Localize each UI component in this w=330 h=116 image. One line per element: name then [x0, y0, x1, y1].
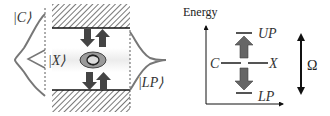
cavity-state-label: |C⟩: [13, 10, 32, 25]
top-mirror: [52, 4, 130, 28]
lower-level-label: LP: [257, 89, 275, 104]
splitting-label: Ω: [307, 58, 317, 73]
exchange-arrows-top: [80, 29, 110, 47]
rabi-splitting-arrow: [297, 33, 305, 95]
bottom-mirror: [52, 90, 130, 112]
exciton-icon: [80, 52, 106, 68]
energy-diagram: Energy UP LP C X Ω: [183, 5, 317, 104]
polariton-diagram: |C⟩ |X⟩ |LP⟩ Energy UP LP C X Ω: [0, 0, 330, 116]
polariton-state-label: |LP⟩: [138, 75, 164, 90]
up-arrow-icon: [235, 36, 253, 58]
cavity-level-label: C: [210, 56, 220, 71]
polariton-mode-profile: [130, 30, 166, 108]
exciton-state-label: |X⟩: [48, 53, 66, 68]
exchange-arrows-bottom: [82, 72, 111, 90]
upper-level-label: UP: [258, 26, 277, 41]
energy-axis-label: Energy: [183, 5, 217, 19]
exciton-level-label: X: [268, 56, 278, 71]
down-arrow-icon: [235, 68, 253, 90]
